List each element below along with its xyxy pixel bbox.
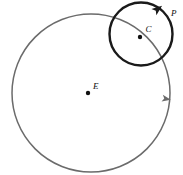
point-marker-E [86, 91, 90, 95]
epicycle-circle [110, 3, 173, 66]
point-marker-C [138, 35, 142, 39]
epicycle-diagram-svg: E C P [0, 0, 183, 175]
deferent-circle [12, 14, 170, 172]
label-E: E [92, 81, 99, 91]
figure-container: E C P [0, 0, 183, 175]
label-P: P [170, 8, 177, 18]
label-C: C [146, 24, 153, 34]
